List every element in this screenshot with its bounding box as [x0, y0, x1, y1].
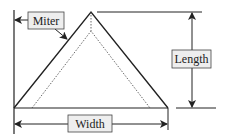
length-label-text: Length — [175, 52, 209, 66]
miter-leader-edge — [55, 29, 67, 39]
miter-diagram: Miter Length Width — [0, 0, 232, 138]
width-label-text: Width — [75, 117, 105, 131]
miter-label-text: Miter — [33, 14, 60, 28]
miter-label: Miter — [28, 12, 64, 29]
inner-dotted-triangle — [32, 31, 150, 108]
width-label: Width — [68, 115, 112, 132]
length-label: Length — [172, 50, 211, 68]
